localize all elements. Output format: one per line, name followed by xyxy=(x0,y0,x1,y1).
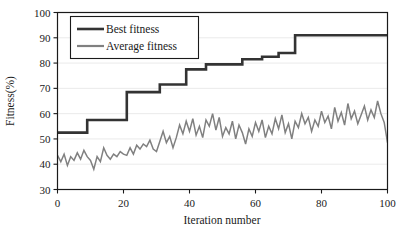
chart-figure: 30405060708090100 020406080100 Fitness(%… xyxy=(0,0,408,234)
y-tick-label-70: 70 xyxy=(40,82,52,94)
y-axis-title: Fitness(%) xyxy=(4,76,17,126)
y-tick-label-100: 100 xyxy=(34,7,51,19)
legend-label-average-fitness: Average fitness xyxy=(106,40,178,53)
x-tick-label-40: 40 xyxy=(184,197,196,209)
x-tick-label-100: 100 xyxy=(379,197,396,209)
x-tick-label-80: 80 xyxy=(316,197,328,209)
legend-label-best-fitness: Best fitness xyxy=(106,23,160,35)
y-tick-label-80: 80 xyxy=(40,57,52,69)
x-tick-label-20: 20 xyxy=(118,197,130,209)
chart-legend: Best fitness Average fitness xyxy=(71,17,199,59)
x-axis-title: Iteration number xyxy=(184,214,261,226)
y-tick-label-40: 40 xyxy=(40,158,52,170)
x-tick-label-60: 60 xyxy=(250,197,262,209)
fitness-line-chart: 30405060708090100 020406080100 Fitness(%… xyxy=(0,0,408,234)
y-tick-label-90: 90 xyxy=(40,32,52,44)
y-tick-label-60: 60 xyxy=(40,108,52,120)
y-tick-label-30: 30 xyxy=(40,184,52,196)
y-tick-label-50: 50 xyxy=(40,133,52,145)
x-tick-label-0: 0 xyxy=(55,197,61,209)
